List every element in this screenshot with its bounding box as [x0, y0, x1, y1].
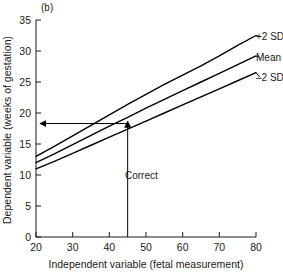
x-tick-label: 40: [103, 241, 115, 253]
x-axis-title: Independent variable (fetal measurement): [49, 258, 244, 270]
y-tick-label: 10: [19, 169, 31, 181]
annotation-label-correct: Correct: [125, 170, 158, 181]
y-tick-labels: 0 5 10 15 20 25 30 35: [19, 14, 31, 243]
y-tick-label: 25: [19, 76, 31, 88]
axis-lines: [36, 20, 256, 237]
series-label-plus2sd: +2 SD: [256, 31, 283, 42]
series-label-minus2sd: –2 SD: [256, 72, 283, 83]
chart-figure: (b): [0, 0, 283, 275]
x-tick-labels: 20 30 40 50 60 70 80: [30, 241, 262, 253]
y-tick-marks: [36, 20, 41, 237]
readout-annotation: Correct: [40, 121, 158, 237]
data-series: [36, 36, 256, 169]
x-tick-label: 60: [177, 241, 189, 253]
series-labels: +2 SD Mean –2 SD: [256, 31, 283, 83]
x-tick-label: 70: [213, 241, 225, 253]
y-tick-label: 5: [25, 200, 31, 212]
series-label-mean: Mean: [256, 52, 281, 63]
y-axis-title: Dependent variable (weeks of gestation): [1, 36, 13, 224]
x-tick-label: 50: [140, 241, 152, 253]
x-tick-label: 30: [67, 241, 79, 253]
y-tick-label: 20: [19, 107, 31, 119]
x-tick-marks: [36, 232, 256, 237]
chart-canvas: (b): [0, 0, 283, 275]
y-tick-label: 15: [19, 138, 31, 150]
axes: 0 5 10 15 20 25 30 35 20 30 40 50 60 70 …: [1, 14, 262, 270]
series-line-plus2sd: [36, 36, 256, 157]
x-tick-label: 20: [30, 241, 42, 253]
y-tick-label: 30: [19, 45, 31, 57]
panel-label: (b): [41, 2, 53, 13]
series-line-minus2sd: [36, 73, 256, 169]
y-tick-label: 35: [19, 14, 31, 26]
series-line-mean: [36, 56, 256, 163]
x-tick-label: 80: [250, 241, 262, 253]
